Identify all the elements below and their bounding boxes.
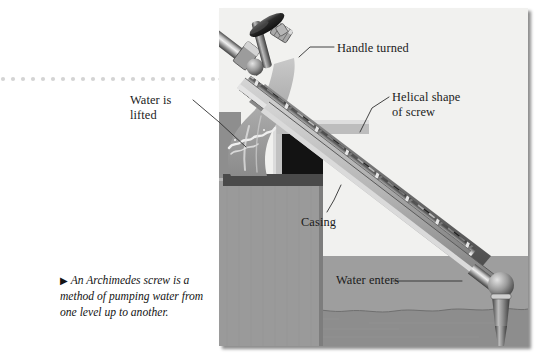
illustration-panel xyxy=(219,8,528,346)
label-water-enters: Water enters xyxy=(336,273,399,288)
label-casing: Casing xyxy=(301,215,336,230)
archimedes-screw-illustration xyxy=(219,8,528,346)
label-helical-shape-line2: of screw xyxy=(392,105,435,119)
label-water-is-lifted: Water islifted xyxy=(130,93,171,123)
caption-text: An Archimedes screw is a method of pumpi… xyxy=(60,274,203,319)
label-water-is-lifted-line1: Water is xyxy=(130,93,171,107)
dotted-rule xyxy=(0,75,222,83)
masonry-pier xyxy=(219,178,323,346)
label-handle-turned: Handle turned xyxy=(337,41,409,56)
label-helical-shape-line1: Helical shape xyxy=(392,90,460,104)
label-water-is-lifted-line2: lifted xyxy=(130,108,157,122)
label-helical-shape: Helical shapeof screw xyxy=(392,90,460,120)
caption-triangle-icon: ▶ xyxy=(60,275,68,286)
crank-ball-joint xyxy=(247,59,264,76)
figure-canvas: Handle turned Water islifted Helical sha… xyxy=(0,0,560,359)
figure-caption: ▶ An Archimedes screw is a method of pum… xyxy=(60,273,210,321)
